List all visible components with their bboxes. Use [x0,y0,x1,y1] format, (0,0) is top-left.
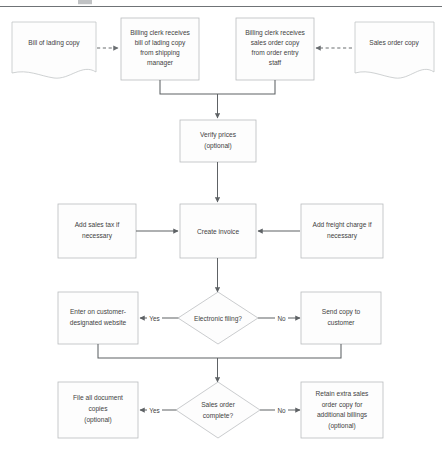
node-add-sales-tax [58,204,136,258]
edge-label-sales-order-complete-no: No [277,407,286,414]
node-add-freight-charge [301,204,383,258]
node-label-add-sales-tax-2: necessary [82,232,113,240]
node-label-retain-extra-copy-1: Retain extra sales [316,390,369,397]
node-bill-of-lading-copy [12,22,96,78]
flowchart-canvas: Bill of lading copy Billing clerk receiv… [0,0,442,459]
node-label-file-all-documents-1: File all document [73,394,123,401]
node-label-billing-clerk-sales-order-4: staff [269,59,282,66]
node-label-file-all-documents-3: (optional) [84,416,112,424]
node-label-sales-order-complete-2: complete? [203,412,234,420]
node-label-enter-on-website-2: designated website [70,319,127,327]
node-sales-order-copy [355,22,434,78]
node-label-billing-clerk-lading-4: manager [147,59,174,67]
node-label-bill-of-lading-copy: Bill of lading copy [28,39,80,47]
node-enter-on-website [58,292,138,344]
node-label-retain-extra-copy-2: order copy for [322,401,363,409]
node-label-billing-clerk-sales-order-2: sales order copy [251,39,300,47]
node-label-enter-on-website-1: Enter on customer- [70,308,126,315]
node-label-electronic-filing: Electronic filing? [194,315,242,323]
node-label-send-copy-to-customer-2: customer [327,319,355,326]
clipped-text-fragment [78,0,92,4]
node-sales-order-complete [176,382,260,438]
node-send-copy-to-customer [301,292,381,344]
node-label-add-freight-charge-1: Add freight charge if [312,221,371,229]
node-label-billing-clerk-sales-order-3: from order entry [252,49,300,57]
node-label-create-invoice: Create invoice [197,228,239,235]
edge-label-electronic-filing-no: No [277,315,286,322]
node-label-verify-prices-1: Verify prices [200,131,237,139]
node-label-billing-clerk-lading-2: bill of lading copy [135,39,186,47]
node-label-sales-order-copy: Sales order copy [369,39,419,47]
node-label-billing-clerk-lading-1: Billing clerk receives [130,29,190,37]
edge-label-electronic-filing-yes: Yes [149,315,159,322]
node-label-sales-order-complete-1: Sales order [201,401,236,408]
flowchart-page: Bill of lading copy Billing clerk receiv… [0,0,442,459]
node-label-add-freight-charge-2: necessary [327,232,358,240]
node-label-billing-clerk-lading-3: from shipping [140,49,180,57]
node-label-file-all-documents-2: copies [88,405,108,413]
node-label-add-sales-tax-1: Add sales tax if [75,221,120,228]
connector-row4-merge-bus [98,344,341,358]
edge-label-sales-order-complete-yes: Yes [149,407,159,414]
node-label-verify-prices-2: (optional) [204,142,232,150]
node-label-send-copy-to-customer-1: Send copy to [322,308,361,316]
node-label-retain-extra-copy-3: additional billings [317,411,368,419]
node-verify-prices [180,120,256,162]
connector-row1-merge-bus [160,80,275,94]
node-label-billing-clerk-sales-order-1: Billing clerk receives [245,29,305,37]
node-label-retain-extra-copy-4: (optional) [328,422,356,430]
